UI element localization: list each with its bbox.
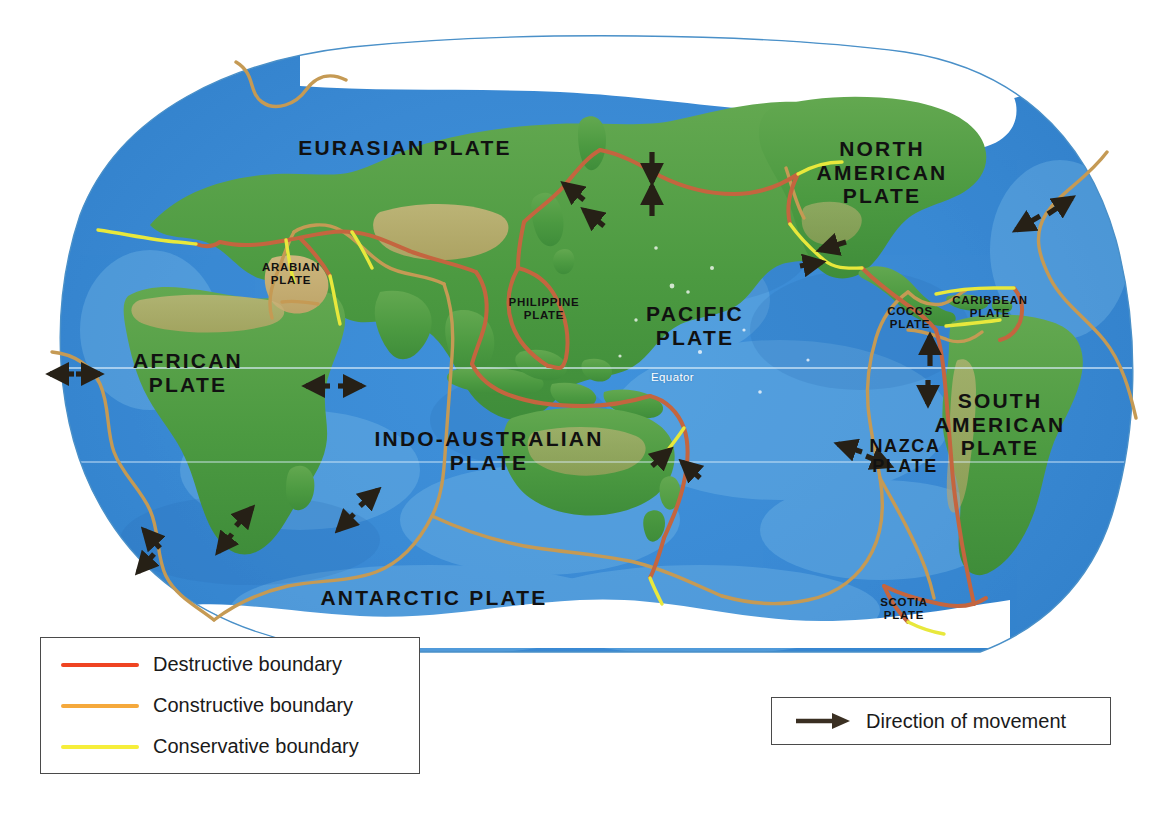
boundary-caribbean-north	[936, 288, 1014, 294]
boundary-peru-chile-trench	[936, 330, 974, 604]
arrow-atlantic-west	[1016, 216, 1040, 230]
constructive-boundaries	[52, 62, 1136, 620]
arrow-seir-ne	[360, 490, 378, 506]
boundary-southeast-indian-ridge	[432, 516, 722, 596]
destructive-boundary-swatch	[61, 663, 139, 667]
legend-row-conservative: Conservative boundary	[41, 726, 419, 767]
boundary-mid-atlantic	[1038, 152, 1136, 418]
destructive-boundary-label: Destructive boundary	[153, 653, 342, 676]
boundary-middle-america-trench	[862, 268, 936, 330]
conservative-boundary-label: Conservative boundary	[153, 735, 359, 758]
arrow-seir-sw	[338, 514, 354, 530]
boundary-alpide-belt	[220, 232, 476, 272]
boundary-sunda-arc	[472, 364, 650, 406]
boundary-zagros	[300, 238, 330, 276]
boundary-owen-fracture	[330, 276, 340, 324]
legend-row-constructive: Constructive boundary	[41, 685, 419, 726]
boundary-philippine-west	[509, 268, 548, 366]
boundary-african-rift	[52, 352, 214, 620]
boundary-izu-mariana	[518, 222, 524, 268]
legend-row-movement: Direction of movement	[772, 698, 1110, 744]
tectonic-plates-map: EURASIAN PLATENORTH AMERICAN PLATEPACIFI…	[0, 0, 1153, 816]
boundary-east-pacific-rise	[867, 292, 908, 478]
boundary-dead-sea	[286, 240, 294, 282]
boundary-cocos-nazca	[908, 330, 982, 342]
arrow-juan-de-fuca-east	[800, 262, 822, 266]
legend-row-destructive: Destructive boundary	[41, 644, 419, 685]
arrow-north-america-west	[820, 242, 846, 250]
boundary-pacific-antarctic-ridge	[722, 478, 882, 603]
boundary-azores-gibraltar	[98, 230, 196, 244]
boundary-scotia-transform	[908, 622, 944, 634]
boundary-aleutian-trench	[600, 150, 798, 194]
boundary-queen-charlotte	[798, 162, 842, 174]
boundary-chaman	[352, 232, 372, 268]
movement-arrows	[50, 152, 1072, 572]
boundary-lesser-antilles	[1000, 288, 1022, 340]
direction-arrow-icon	[794, 710, 852, 732]
boundary-macquarie	[650, 578, 662, 604]
arrow-swir-sw	[138, 554, 154, 572]
arrow-swir-ne-2	[236, 508, 252, 526]
arrow-pacific-nw-japan	[564, 184, 584, 200]
constructive-boundary-label: Constructive boundary	[153, 694, 353, 717]
boundary-red-sea	[270, 232, 294, 318]
constructive-boundary-swatch	[61, 704, 139, 708]
boundary-himalaya	[472, 272, 487, 364]
arrow-australia-ne	[652, 450, 670, 466]
conservative-boundaries	[98, 162, 1014, 634]
boundary-mediterranean	[196, 242, 220, 246]
arrow-swir-sw-2	[218, 534, 232, 552]
conservative-boundary-swatch	[61, 745, 139, 749]
boundary-mid-atlantic-north	[236, 62, 346, 106]
arrow-pacific-nw-2	[584, 210, 604, 226]
movement-legend-label: Direction of movement	[866, 710, 1066, 733]
movement-legend: Direction of movement	[771, 697, 1111, 745]
boundary-legend: Destructive boundary Constructive bounda…	[40, 637, 420, 774]
boundary-sw-indian-ridge	[214, 284, 453, 620]
arrow-nazca-west	[838, 444, 862, 452]
boundary-chile-rise	[880, 478, 934, 598]
boundary-gulf-of-aden	[282, 301, 318, 304]
boundary-new-guinea-tonga	[650, 396, 688, 538]
boundary-caribbean-south	[946, 320, 1000, 326]
boundary-philippine-east	[518, 268, 568, 368]
